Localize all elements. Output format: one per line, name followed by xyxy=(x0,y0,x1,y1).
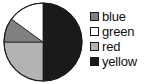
legend-label-blue: blue xyxy=(102,10,126,23)
chart-legend: blue green red yellow xyxy=(90,9,156,69)
legend-label-red: red xyxy=(102,40,120,53)
legend-item-yellow: yellow xyxy=(90,54,156,69)
pie-chart-plot xyxy=(2,1,84,83)
legend-item-blue: blue xyxy=(90,9,156,24)
legend-swatch-blue-icon xyxy=(90,12,99,21)
pie-svg xyxy=(2,1,84,83)
legend-label-yellow: yellow xyxy=(102,55,137,68)
pie-slice-yellow xyxy=(43,3,82,81)
legend-item-green: green xyxy=(90,24,156,39)
pie-chart-figure: blue green red yellow xyxy=(0,0,156,84)
legend-item-red: red xyxy=(90,39,156,54)
legend-swatch-green-icon xyxy=(90,27,99,36)
legend-swatch-yellow-icon xyxy=(90,57,99,66)
legend-label-green: green xyxy=(102,25,134,38)
legend-swatch-red-icon xyxy=(90,42,99,51)
